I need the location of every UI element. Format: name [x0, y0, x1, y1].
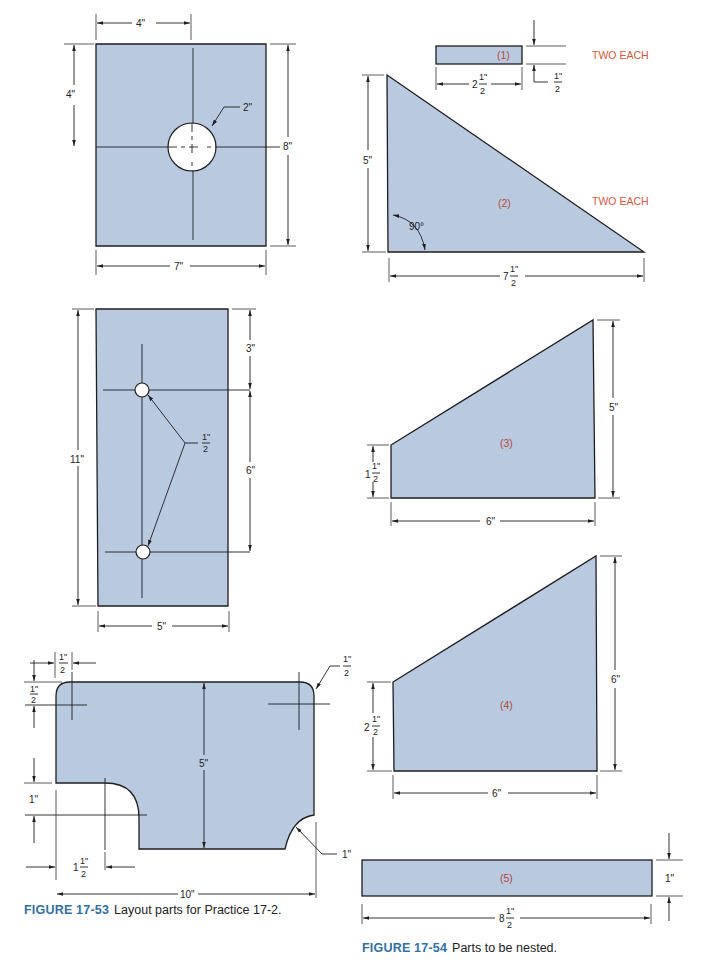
- dim-height: 8": [283, 141, 293, 152]
- svg-text:2: 2: [344, 668, 349, 678]
- part-b-plate: 11" 3" 6" 1" 2 5": [70, 309, 256, 632]
- dim-hole-offset-x: 4": [136, 18, 146, 29]
- part-3: (3) 1 1" 2 5" 6": [365, 320, 620, 527]
- svg-text:8: 8: [499, 913, 505, 924]
- part-3-outline: [391, 320, 595, 498]
- dim-hole-diameter: 2": [243, 102, 253, 113]
- dim-angle: 90°: [409, 221, 424, 232]
- svg-text:1": 1": [372, 714, 380, 724]
- svg-text:2: 2: [31, 695, 36, 705]
- part-b-hole-bottom: [136, 545, 150, 559]
- svg-text:1: 1: [73, 862, 79, 873]
- part-2: (2) TWO EACH 5" 90° 7 1" 2: [362, 75, 649, 288]
- svg-text:1": 1": [80, 856, 88, 866]
- part-c-plate: 5" 1" 2 1" 2 1" 1 1" 2 1" 2: [24, 652, 352, 900]
- svg-text:2: 2: [480, 86, 485, 96]
- figure-54-caption: FIGURE 17-54Parts to be nested.: [362, 941, 557, 955]
- dim-width: 10": [180, 889, 195, 900]
- drawing-canvas: 4" 4" 2" 8" 7" 11": [0, 0, 701, 975]
- part-b-outline: [96, 309, 228, 606]
- part-1-label: (1): [497, 49, 510, 61]
- dim-height: 11": [70, 454, 84, 465]
- dim-height: 1": [665, 873, 675, 884]
- dim-right-height: 5": [609, 402, 619, 413]
- svg-text:7: 7: [503, 271, 509, 282]
- figure-54-label: FIGURE 17-54: [362, 941, 447, 955]
- part-4-label: (4): [500, 699, 513, 711]
- dim-width: 6": [486, 516, 496, 527]
- part-a-plate: 4" 4" 2" 8" 7": [64, 14, 296, 275]
- dim-notch-radius: 1": [342, 849, 352, 860]
- part-4-outline: [393, 556, 597, 771]
- svg-text:2: 2: [511, 278, 516, 288]
- dim-right-height: 6": [611, 674, 621, 685]
- dim-hole-spacing: 6": [246, 465, 256, 476]
- dim-hole-offset-y: 4": [66, 89, 76, 100]
- dim-top-offset: 3": [246, 343, 256, 354]
- part-5: (5) 1" 8 1" 2: [362, 833, 683, 930]
- figure-53-caption: FIGURE 17-53Layout parts for Practice 17…: [24, 903, 282, 917]
- part-4: (4) 2 1" 2 6" 6": [364, 556, 622, 799]
- svg-text:1": 1": [202, 432, 210, 442]
- dim-notch-depth: 1": [29, 794, 39, 805]
- part-b-hole-top: [135, 383, 149, 397]
- svg-text:2: 2: [81, 869, 86, 879]
- svg-text:1": 1": [59, 652, 67, 662]
- svg-text:1": 1": [479, 72, 487, 82]
- svg-text:2: 2: [507, 920, 512, 930]
- svg-text:1": 1": [510, 264, 518, 274]
- svg-text:1": 1": [343, 654, 351, 664]
- dim-width: 6": [492, 788, 502, 799]
- svg-text:1": 1": [30, 684, 38, 694]
- svg-text:1": 1": [372, 461, 380, 471]
- part-5-label: (5): [500, 872, 513, 884]
- svg-text:2: 2: [60, 665, 65, 675]
- dim-width: 5": [157, 621, 167, 632]
- part-2-outline: [387, 75, 644, 252]
- part-2-label: (2): [498, 197, 511, 209]
- svg-text:2: 2: [364, 722, 370, 733]
- figure-53-caption-text: Layout parts for Practice 17-2.: [114, 903, 281, 917]
- dim-height: 5": [363, 155, 373, 166]
- part-1-quantity: TWO EACH: [592, 49, 649, 61]
- svg-text:1: 1: [365, 469, 371, 480]
- figure-54-caption-text: Parts to be nested.: [452, 941, 557, 955]
- svg-text:2: 2: [555, 84, 560, 94]
- part-2-quantity: TWO EACH: [592, 195, 649, 207]
- svg-text:2: 2: [373, 474, 378, 484]
- dim-width: 7": [174, 261, 184, 272]
- svg-text:1": 1": [554, 71, 562, 81]
- svg-text:1": 1": [506, 906, 514, 916]
- figure-53-label: FIGURE 17-53: [24, 903, 109, 917]
- part-1: (1) TWO EACH 1" 2 2 1" 2: [436, 20, 649, 96]
- part-c-outline: [56, 682, 314, 849]
- dim-height: 5": [199, 758, 209, 769]
- svg-text:2: 2: [472, 79, 478, 90]
- svg-text:2: 2: [203, 444, 208, 454]
- svg-text:2: 2: [373, 727, 378, 737]
- part-3-label: (3): [500, 437, 513, 449]
